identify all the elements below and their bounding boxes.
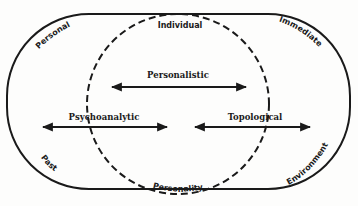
psychoanalytic-label: Psychoanalytic — [69, 112, 140, 122]
personal-label: Personal — [34, 20, 72, 51]
personal-label-path: Personal — [34, 20, 72, 51]
past-label: Past — [39, 153, 59, 173]
topological-label: Topological — [228, 112, 283, 122]
past-label-path: Past — [39, 153, 59, 173]
diagram-svg: Personalistic Psychoanalytic Topological… — [0, 0, 358, 206]
dashed-circle — [87, 14, 269, 194]
diagram-canvas: Personalistic Psychoanalytic Topological… — [0, 0, 358, 206]
personalistic-label: Personalistic — [147, 70, 209, 80]
immediate-label: Immediate — [278, 15, 324, 49]
outer-stadium — [7, 14, 350, 189]
immediate-label-path: Immediate — [278, 15, 324, 49]
individual-label: Individual — [158, 21, 203, 30]
